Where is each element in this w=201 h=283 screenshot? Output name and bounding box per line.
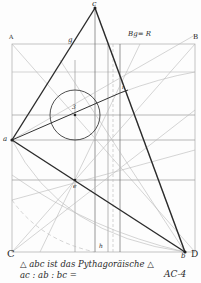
construction-sheet: c A B Bg= R g i 3 a e h C b D △ abc ist … <box>0 0 201 283</box>
geometric-construction <box>0 0 201 283</box>
label-corner-d: D <box>191 250 198 259</box>
label-circle-center: 3 <box>72 104 76 110</box>
label-point-b: b <box>181 253 185 260</box>
caption-line-2: ac : ab : bc = <box>20 271 77 280</box>
note-bg-r: Bg= R <box>128 31 151 38</box>
label-corner-a: A <box>9 34 13 40</box>
side-ab <box>12 140 185 252</box>
label-point-g: g <box>68 37 72 44</box>
label-corner-b: B <box>193 34 198 41</box>
label-point-h: h <box>99 243 103 249</box>
side-ca <box>12 8 95 140</box>
label-point-e: e <box>73 183 77 189</box>
label-point-a: a <box>3 136 7 143</box>
label-apex-c: c <box>92 0 96 8</box>
label-point-i: i <box>122 84 124 90</box>
label-corner-c: C <box>7 249 15 259</box>
sheet-id: AC-4 <box>164 270 186 279</box>
caption-line-1: △ abc ist das Pythagoräische △ <box>20 260 154 269</box>
